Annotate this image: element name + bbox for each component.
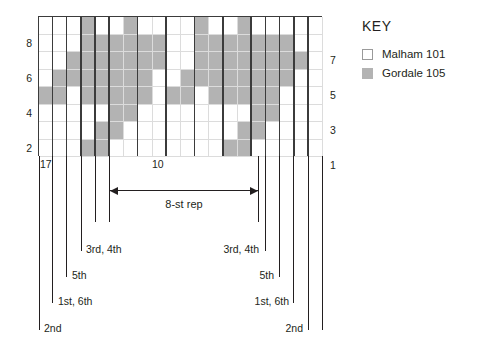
chart-cell xyxy=(167,52,181,70)
chart-cell xyxy=(309,122,323,140)
chart-cell xyxy=(223,70,237,88)
chart-cell xyxy=(238,140,252,158)
chart-cell xyxy=(266,35,280,53)
chart-cell xyxy=(195,140,209,158)
chart-cell xyxy=(124,140,138,158)
chart-cell xyxy=(309,70,323,88)
chart-cell xyxy=(266,52,280,70)
chart-cell xyxy=(124,105,138,123)
chart-cell xyxy=(181,105,195,123)
chart-cell xyxy=(238,17,252,35)
chart-cell xyxy=(53,70,67,88)
chart-cell xyxy=(195,87,209,105)
chart-cell xyxy=(209,87,223,105)
chart-cell xyxy=(138,70,152,88)
stitch-count-left: 17 xyxy=(40,158,52,170)
chart-cell xyxy=(209,35,223,53)
chart-cell xyxy=(39,122,53,140)
chart-cell xyxy=(223,87,237,105)
chart-cell xyxy=(110,35,124,53)
row-number-right-5: 5 xyxy=(330,90,336,101)
chart-cell xyxy=(53,105,67,123)
chart-cell xyxy=(181,122,195,140)
chart-cell xyxy=(294,122,308,140)
annotation-left-1st-6th: 1st, 6th xyxy=(58,296,92,307)
chart-cell xyxy=(138,122,152,140)
chart-cell xyxy=(138,87,152,105)
chart-cell xyxy=(82,87,96,105)
annotation-right-2nd: 2nd xyxy=(285,323,303,334)
chart-cell xyxy=(238,105,252,123)
chart-cell xyxy=(138,17,152,35)
chart-cell xyxy=(67,17,81,35)
repeat-bracket: 8-st rep xyxy=(110,184,258,220)
chart-cell xyxy=(195,70,209,88)
chart-cell xyxy=(124,70,138,88)
chart-cell xyxy=(294,17,308,35)
chart-cell xyxy=(167,87,181,105)
chart-cell xyxy=(153,122,167,140)
chart-page: 8 6 4 2 7 5 3 1 17 10 8-st rep 3rd, 4th … xyxy=(0,0,479,345)
chart-cell xyxy=(294,87,308,105)
chart-cell xyxy=(195,52,209,70)
chart-cell xyxy=(96,52,110,70)
chart-grid xyxy=(38,16,322,156)
chart-cell xyxy=(309,105,323,123)
chart-cell xyxy=(96,17,110,35)
chart-cell xyxy=(53,17,67,35)
chart-cell xyxy=(252,52,266,70)
chart-cell xyxy=(110,52,124,70)
chart-cell xyxy=(181,35,195,53)
annotation-left-3rd-4th: 3rd, 4th xyxy=(86,244,122,255)
leader-line-right-5th xyxy=(279,156,280,277)
chart-cell xyxy=(138,35,152,53)
chart-cell xyxy=(280,70,294,88)
chart-cell xyxy=(294,140,308,158)
chart-cell xyxy=(209,17,223,35)
chart-cell xyxy=(209,52,223,70)
chart-cell xyxy=(39,105,53,123)
chart-cell xyxy=(167,122,181,140)
chart-cell xyxy=(96,87,110,105)
chart-cell xyxy=(153,35,167,53)
row-number-right-3: 3 xyxy=(330,125,336,136)
chart-cell xyxy=(39,140,53,158)
chart-cell xyxy=(82,52,96,70)
chart-cell xyxy=(82,105,96,123)
chart-cell xyxy=(209,70,223,88)
chart-cell xyxy=(67,35,81,53)
leader-line-right-edge xyxy=(322,156,323,330)
chart-cell xyxy=(294,52,308,70)
chart-cell xyxy=(309,87,323,105)
chart-cell xyxy=(266,105,280,123)
chart-cell xyxy=(266,122,280,140)
chart-cell xyxy=(96,122,110,140)
chart-cell xyxy=(153,70,167,88)
chart-cell xyxy=(110,87,124,105)
knitting-chart: 8 6 4 2 7 5 3 1 xyxy=(38,16,322,156)
chart-cell xyxy=(195,122,209,140)
row-number-right-7: 7 xyxy=(330,55,336,66)
leader-line-left-5th xyxy=(66,156,67,277)
chart-cell xyxy=(110,105,124,123)
key-item-malham: Malham 101 xyxy=(362,48,474,60)
chart-cell xyxy=(252,70,266,88)
row-number-left-6: 6 xyxy=(26,73,32,84)
chart-cell xyxy=(195,17,209,35)
chart-cell xyxy=(181,17,195,35)
chart-cell xyxy=(238,122,252,140)
chart-cell xyxy=(110,70,124,88)
chart-cell xyxy=(195,105,209,123)
chart-cell xyxy=(309,52,323,70)
annotation-left-5th: 5th xyxy=(72,270,87,281)
chart-cell xyxy=(181,52,195,70)
chart-cell xyxy=(53,122,67,140)
row-number-right-1: 1 xyxy=(330,160,336,171)
chart-cell xyxy=(96,105,110,123)
chart-cell xyxy=(181,140,195,158)
swatch-malham-icon xyxy=(362,49,373,60)
chart-cell xyxy=(67,105,81,123)
chart-cell xyxy=(266,87,280,105)
key-title: KEY xyxy=(362,18,474,34)
chart-cell xyxy=(39,87,53,105)
